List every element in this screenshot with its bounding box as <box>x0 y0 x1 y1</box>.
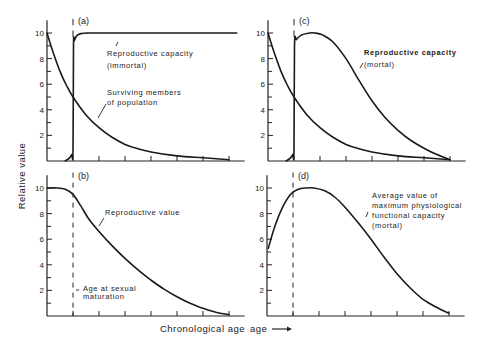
x-axis-label: Chronological age <box>160 323 245 334</box>
y-tick-label: 10 <box>35 184 44 193</box>
annotation-immortal: (immortal) <box>107 61 147 70</box>
y-tick-label: 10 <box>256 29 265 38</box>
y-tick-label: 4 <box>260 261 265 270</box>
figure: Relative value Chronological age age 246… <box>0 0 482 352</box>
x-axis-label-age: age <box>250 323 267 334</box>
y-tick-label: 6 <box>260 235 265 244</box>
panel-label: (c) <box>299 16 310 26</box>
y-tick-label: 4 <box>261 106 266 115</box>
y-tick-label: 8 <box>261 55 266 64</box>
annotation-maximum-physiological: maximum physiological <box>372 201 462 210</box>
y-tick-label: 6 <box>40 235 45 244</box>
y-tick-label: 10 <box>35 29 44 38</box>
panel-b: 246810(b) <box>35 171 245 316</box>
annotation-mortal-c: (mortal) <box>364 60 395 69</box>
y-tick-label: 8 <box>40 210 45 219</box>
panel-c: 246810(c) <box>256 16 466 161</box>
annotation-functional-capacity: functional capacity <box>372 211 445 220</box>
y-tick-label: 10 <box>255 184 264 193</box>
y-tick-label: 8 <box>40 55 45 64</box>
y-tick-label: 4 <box>40 106 45 115</box>
annotation-of-population: of population <box>107 98 158 107</box>
annotations-a: Reproductive capacity (immortal) Survivi… <box>98 42 193 118</box>
annotations-d: Average value of maximum physiological f… <box>366 191 462 230</box>
y-tick-label: 2 <box>40 286 45 295</box>
y-tick-label: 6 <box>261 80 266 89</box>
arrow-head-icon <box>287 327 292 332</box>
annotation-average-value: Average value of <box>372 191 438 200</box>
annotation-reproductive-capacity-immortal: Reproductive capacity <box>107 49 193 58</box>
series-curve <box>47 188 229 315</box>
y-tick-label: 6 <box>40 80 45 89</box>
y-tick-label: 2 <box>260 286 265 295</box>
annotation-reproductive-value: Reproductive value <box>105 208 180 217</box>
y-tick-label: 2 <box>261 131 266 140</box>
annotations-c: Reproductive capacity (mortal) <box>360 48 457 69</box>
panel-label: (d) <box>298 171 309 181</box>
y-tick-label: 4 <box>40 261 45 270</box>
y-tick-label: 8 <box>260 210 265 219</box>
annotation-mortal-d: (mortal) <box>372 221 403 230</box>
panel-label: (a) <box>78 16 89 26</box>
y-axis-label: Relative value <box>16 143 27 210</box>
panel-label: (b) <box>78 171 89 181</box>
annotation-surviving-members: Surviving members <box>107 88 181 97</box>
y-tick-label: 2 <box>40 131 45 140</box>
annotation-reproductive-capacity-mortal: Reproductive capacity <box>364 48 457 57</box>
x-axis-label-group: Chronological age age <box>160 323 292 334</box>
annotation-maturation: maturation <box>83 292 124 301</box>
